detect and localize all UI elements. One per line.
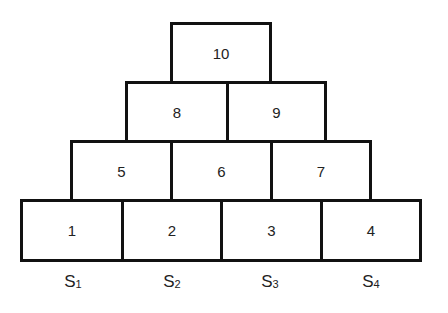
box-label: 5: [117, 163, 125, 180]
box-label: 7: [317, 163, 325, 180]
box-5: 5: [70, 140, 173, 202]
stack-label-s1: S1: [64, 272, 81, 292]
box-label: 1: [68, 222, 76, 239]
box-label: 3: [267, 222, 275, 239]
box-label: 4: [367, 222, 375, 239]
stack-label-s2: S2: [163, 272, 180, 292]
box-6: 6: [170, 140, 273, 202]
box-label: 6: [217, 163, 225, 180]
box-label: 2: [168, 222, 176, 239]
box-label: 10: [213, 45, 230, 62]
box-label: 8: [173, 104, 181, 121]
stack-label-s3: S3: [261, 272, 278, 292]
box-4: 4: [320, 199, 422, 262]
box-3: 3: [220, 199, 323, 262]
box-8: 8: [125, 81, 229, 143]
box-2: 2: [121, 199, 223, 262]
stack-label-s4: S4: [362, 272, 379, 292]
box-1: 1: [20, 199, 124, 262]
box-9: 9: [226, 81, 327, 143]
box-10: 10: [170, 22, 272, 84]
box-label: 9: [272, 104, 280, 121]
box-7: 7: [270, 140, 372, 202]
